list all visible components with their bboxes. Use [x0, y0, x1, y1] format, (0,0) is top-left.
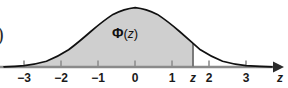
shaded-area-phi-z: [6, 8, 193, 67]
area-label-phi-z: Φ(z): [112, 26, 138, 41]
tick-label-neg1: −1: [90, 72, 106, 84]
phi-close-paren: ): [134, 26, 138, 41]
tick-label-neg2: −2: [53, 72, 69, 84]
x-axis-label-z: z: [277, 72, 283, 84]
tick-label-two: 2: [202, 72, 216, 84]
phi-symbol: Φ: [112, 25, 124, 41]
tick-label-neg3: −3: [16, 72, 32, 84]
tick-label-three: 3: [239, 72, 253, 84]
tick-label-z-marker: z: [187, 72, 199, 84]
tick-label-one: 1: [165, 72, 179, 84]
normal-distribution-figure: ) Φ(z) −3 −2 −1 0 1 z 2 3 z: [0, 0, 288, 88]
tick-label-zero: 0: [128, 72, 142, 84]
